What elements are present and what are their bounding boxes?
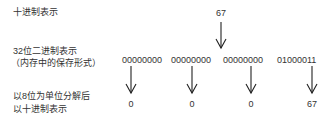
int-memory-layout-diagram: 十进制表示 32位二进制表示 （内存中的保存形式） 以8位为单位分解后 以十进制… <box>0 0 330 120</box>
arrow-down-icon <box>126 66 136 93</box>
arrow-down-icon <box>187 66 197 93</box>
arrow-down-icon <box>216 22 226 48</box>
arrow-down-icon <box>246 66 256 93</box>
arrow-down-icon <box>307 66 317 93</box>
arrows-layer <box>0 0 330 120</box>
